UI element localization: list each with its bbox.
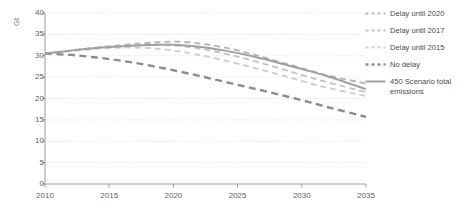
legend-swatch-dashed-bold-icon bbox=[365, 60, 386, 69]
legend-item[interactable]: Delay until 2015 bbox=[365, 43, 466, 53]
chart-legend: Delay until 2020Delay until 2017Delay un… bbox=[365, 9, 466, 104]
x-tick-label: 2025 bbox=[229, 192, 247, 200]
x-tick-label: 2030 bbox=[293, 192, 311, 200]
legend-swatch-dashed-icon bbox=[365, 43, 386, 52]
legend-item[interactable]: No delay bbox=[365, 60, 466, 70]
x-tick-label: 2015 bbox=[100, 192, 118, 200]
x-tick-label: 2020 bbox=[164, 192, 182, 200]
legend-swatch-solid-icon bbox=[365, 77, 386, 86]
legend-label: Delay until 2017 bbox=[390, 26, 444, 36]
legend-label: Delay until 2015 bbox=[390, 43, 444, 53]
x-tick-label: 2035 bbox=[357, 192, 375, 200]
legend-swatch-dashed-icon bbox=[365, 26, 386, 35]
legend-label: 450 Scenario total emissions bbox=[390, 77, 451, 96]
legend-item[interactable]: 450 Scenario total emissions bbox=[365, 77, 466, 96]
legend-label: No delay bbox=[390, 60, 420, 70]
legend-swatch-dashed-icon bbox=[365, 9, 386, 18]
legend-label: Delay until 2020 bbox=[390, 9, 444, 19]
legend-item[interactable]: Delay until 2020 bbox=[365, 9, 466, 19]
legend-item[interactable]: Delay until 2017 bbox=[365, 26, 466, 36]
emissions-line-chart: Gt 0510152025303540 20102015202020252030… bbox=[0, 0, 466, 214]
x-tick-label: 2010 bbox=[36, 192, 54, 200]
